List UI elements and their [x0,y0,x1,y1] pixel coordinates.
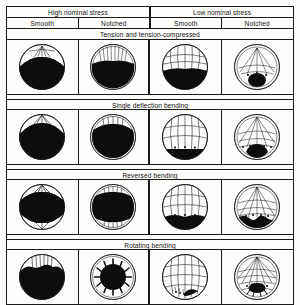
header-group-low-nominal-stress: Low nominal stress [150,7,293,18]
cell-bend2-high-smooth [7,180,79,234]
figure-sheet: High nominal stress Low nominal stress S… [0,0,300,305]
table-header-group-row: High nominal stress Low nominal stress [7,7,293,18]
section-label-single-deflection-bending: Single deflection bending [7,99,293,110]
header-col-high-notched: Notched [79,18,151,29]
cell-bend2-high-notched [79,180,151,234]
fracture-diagram-v10 [88,182,138,232]
fracture-diagram-v12 [232,182,282,232]
cell-bend1-high-notched [79,110,151,164]
fracture-diagram-v6 [88,112,138,162]
fracture-diagram-v11 [160,182,210,232]
fracture-diagram-v16 [232,252,282,302]
cell-tension-high-smooth [7,40,79,94]
cell-tension-low-notched [222,40,294,94]
fracture-diagram-v2 [88,42,138,92]
fracture-diagram-v3 [160,42,210,92]
section-row-single-deflection-bending [7,110,293,164]
section-label-reversed-bending: Reversed bending [7,169,293,180]
cell-bend1-low-notched [222,110,294,164]
header-group-high-nominal-stress: High nominal stress [7,7,150,18]
cell-tension-high-notched [79,40,151,94]
section-label-tension: Tension and tension-compressed [7,29,293,40]
fracture-diagram-v13 [17,252,67,302]
header-col-low-smooth: Smooth [150,18,222,29]
cell-bend2-low-notched [222,180,294,234]
cell-bend1-high-smooth [7,110,79,164]
fracture-surface-table: High nominal stress Low nominal stress S… [6,6,294,305]
fracture-diagram-v14 [88,252,138,302]
cell-rot-low-notched [222,250,294,304]
fracture-diagram-v7 [160,112,210,162]
fracture-diagram-v1 [17,42,67,92]
cell-tension-low-smooth [150,40,222,94]
fracture-diagram-v15 [160,252,210,302]
section-row-tension [7,40,293,94]
section-label-rotating-bending: Rotating bending [7,239,293,250]
section-row-reversed-bending [7,180,293,234]
fracture-diagram-v9 [17,182,67,232]
cell-bend2-low-smooth [150,180,222,234]
cell-bend1-low-smooth [150,110,222,164]
fracture-diagram-v5 [17,112,67,162]
cell-rot-low-smooth [150,250,222,304]
fracture-diagram-v8 [232,112,282,162]
table-header-sub-row: Smooth Notched Smooth Notched [7,18,293,29]
section-row-rotating-bending [7,250,293,304]
header-col-high-smooth: Smooth [7,18,79,29]
header-col-low-notched: Notched [222,18,294,29]
cell-rot-high-notched [79,250,151,304]
fracture-diagram-v4 [232,42,282,92]
cell-rot-high-smooth [7,250,79,304]
